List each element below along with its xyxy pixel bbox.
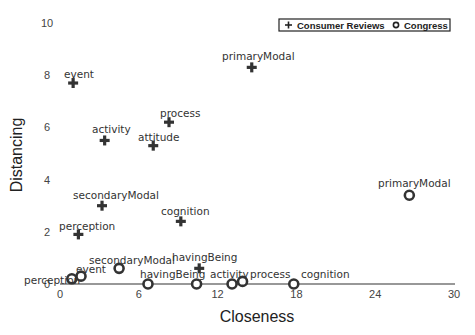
point-label: perception [24, 274, 80, 286]
point-label: primaryModal [222, 50, 295, 62]
point-label: perception [59, 220, 115, 232]
x-tick-label: 30 [448, 288, 460, 300]
plus-marker-icon [97, 201, 107, 211]
circle-marker-icon [405, 191, 414, 200]
circle-marker-icon [238, 277, 247, 286]
y-tick-label: 6 [44, 121, 50, 133]
x-tick-label: 24 [369, 288, 381, 300]
point-label: primaryModal [378, 177, 451, 189]
scatter-chart: 0246810 0612182430 eventactivityattitude… [0, 0, 475, 335]
data-points: eventactivityattitudeprocessprimaryModal… [24, 50, 451, 289]
x-tick-label: 0 [57, 288, 63, 300]
point-label: cognition [161, 205, 210, 217]
x-axis-label: Closeness [220, 308, 295, 325]
point-label: secondaryModal [89, 254, 175, 266]
y-tick-label: 8 [44, 69, 50, 81]
y-axis-ticks: 0246810 [41, 17, 53, 290]
y-axis-label: Distancing [8, 118, 25, 193]
x-tick-label: 6 [136, 288, 142, 300]
point-label: secondaryModal [73, 189, 159, 201]
point-label: havingBeing [140, 268, 205, 280]
y-tick-label: 4 [44, 174, 50, 186]
plus-marker-icon [100, 135, 110, 145]
circle-marker-icon [289, 280, 298, 289]
x-tick-label: 18 [290, 288, 302, 300]
legend-label-consumer-reviews: Consumer Reviews [297, 20, 385, 31]
legend-item-consumer-reviews: Consumer Reviews [285, 20, 385, 31]
circle-marker-icon [192, 280, 201, 289]
x-axis-ticks: 0612182430 [57, 288, 460, 300]
point-label: havingBeing [172, 251, 237, 263]
point-label: process [250, 268, 290, 280]
point-label: cognition [301, 268, 350, 280]
circle-marker-icon [143, 280, 152, 289]
series-consumer-reviews: eventactivityattitudeprocessprimaryModal… [59, 50, 295, 273]
y-tick-label: 10 [41, 17, 53, 29]
plus-marker-icon [247, 62, 257, 72]
y-tick-label: 2 [44, 226, 50, 238]
legend: Consumer Reviews Congress [279, 19, 450, 31]
legend-label-congress: Congress [404, 20, 448, 31]
point-label: activity [92, 123, 131, 135]
point-label: event [64, 68, 94, 80]
point-label: process [160, 107, 200, 119]
x-tick-label: 12 [211, 288, 223, 300]
plus-marker-icon [176, 216, 186, 226]
circle-marker-icon [228, 280, 237, 289]
point-label: attitude [138, 131, 179, 143]
